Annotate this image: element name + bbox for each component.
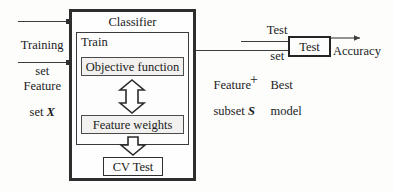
feature-set-label-line2: set [30,105,47,119]
training-set-connector-line [18,21,70,22]
best-model-label: Best model [258,66,302,131]
feature-subset-line1: Feature [214,78,251,92]
feature-subset-symbol: S [248,104,255,118]
feature-set-label: Feature set X [6,67,66,132]
objective-function-box: Objective function [81,57,184,76]
diagram-canvas: Training set Feature set X Classifier Tr… [0,0,394,193]
test-box: Test [288,36,331,57]
objective-function-label: Objective function [82,60,183,73]
feature-subset-label: Feature subset S [201,66,255,131]
train-box-title: Train [81,36,108,49]
classifier-box-title: Classifier [72,16,193,29]
feature-subset-line2: subset [214,104,248,118]
feature-set-label-line1: Feature [24,79,61,93]
plus-sign: + [250,73,258,86]
best-model-line2: model [271,104,302,118]
training-set-label-line1: Training [21,38,64,52]
cv-test-label: CV Test [104,160,162,173]
test-set-label-line2: set [270,49,284,63]
test-box-label: Test [290,40,329,53]
feature-weights-label: Feature weights [82,118,183,131]
feature-set-symbol: X [47,105,55,119]
best-model-line1: Best [271,78,293,92]
test-to-accuracy-arrowhead [354,35,360,40]
test-set-label-line1: Test [267,23,288,37]
accuracy-label: Accuracy [333,45,381,58]
cv-test-box: CV Test [103,157,163,176]
feature-weights-box: Feature weights [81,115,184,134]
